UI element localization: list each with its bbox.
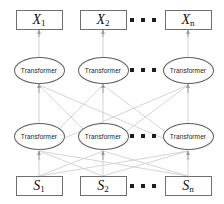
output-label-xn: Xn — [181, 13, 194, 28]
transformer-node-l2-2: Transformer — [78, 57, 129, 84]
connection-edges — [0, 0, 224, 204]
ellipsis-dot — [130, 134, 134, 138]
ellipsis-dot — [130, 18, 134, 22]
transformer-node-l1-n: Transformer — [163, 123, 214, 150]
transformer-label: Transformer — [170, 133, 206, 140]
ellipsis-dot — [141, 184, 145, 188]
input-label-s2: S2 — [97, 179, 109, 194]
input-label-sn: Sn — [182, 179, 194, 194]
input-box-s2: S2 — [80, 176, 127, 196]
transformer-node-l1-2: Transformer — [78, 123, 129, 150]
ellipsis-inputs — [130, 184, 156, 188]
ellipsis-outputs — [130, 18, 156, 22]
output-box-x1: X1 — [16, 10, 63, 30]
input-box-sn: Sn — [165, 176, 212, 196]
ellipsis-dot — [152, 184, 156, 188]
transformer-node-l2-n: Transformer — [163, 57, 214, 84]
output-box-xn: Xn — [165, 10, 212, 30]
transformer-architecture-diagram: X1 X2 Xn Transformer Transformer Transfo… — [0, 0, 224, 204]
transformer-label: Transformer — [21, 67, 57, 74]
ellipsis-dot — [141, 68, 145, 72]
input-box-s1: S1 — [16, 176, 63, 196]
transformer-node-l1-1: Transformer — [14, 123, 65, 150]
ellipsis-dot — [130, 184, 134, 188]
transformer-label: Transformer — [21, 133, 57, 140]
ellipsis-dot — [152, 134, 156, 138]
output-label-x2: X2 — [96, 13, 109, 28]
output-box-x2: X2 — [80, 10, 127, 30]
ellipsis-dot — [130, 68, 134, 72]
transformer-label: Transformer — [170, 67, 206, 74]
ellipsis-dot — [141, 134, 145, 138]
ellipsis-dot — [152, 18, 156, 22]
ellipsis-dot — [152, 68, 156, 72]
input-label-s1: S1 — [33, 179, 45, 194]
ellipsis-transformer-layer-1 — [130, 134, 156, 138]
output-label-x1: X1 — [32, 13, 45, 28]
transformer-node-l2-1: Transformer — [14, 57, 65, 84]
transformer-label: Transformer — [85, 133, 121, 140]
ellipsis-transformer-layer-2 — [130, 68, 156, 72]
ellipsis-dot — [141, 18, 145, 22]
transformer-label: Transformer — [85, 67, 121, 74]
